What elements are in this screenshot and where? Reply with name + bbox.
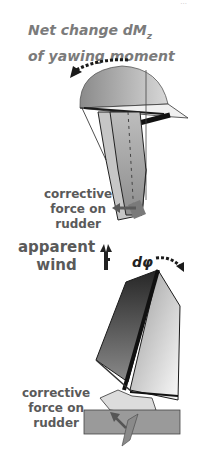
apparent-wind-arrow-icon (100, 244, 112, 270)
apparent-wind-label: apparent wind (18, 238, 95, 274)
heel-angle-label: dφ (132, 255, 153, 270)
heel-arrow-icon (156, 258, 184, 272)
rudder-force-label-top: corrective force on rudder (44, 187, 112, 232)
rudder-force-label-bottom: corrective force on rudder (22, 386, 90, 431)
bottom-view-boat-icon (84, 270, 180, 446)
